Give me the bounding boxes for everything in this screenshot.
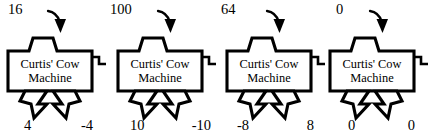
- output-value-left: 10: [130, 118, 145, 133]
- output-chute-left: [130, 91, 157, 118]
- output-chute-right: [163, 91, 190, 118]
- curved-down-arrow-head-icon: [274, 19, 286, 33]
- crank-handle-icon: [414, 57, 428, 64]
- output-value-right: -10: [192, 118, 211, 133]
- crank-handle-icon: [202, 57, 216, 64]
- output-chute-right: [272, 91, 299, 118]
- machine-label-line2: Machine: [350, 71, 394, 85]
- output-chute-left: [20, 91, 47, 118]
- input-value: 64: [221, 2, 236, 17]
- curved-down-arrow-head-icon: [165, 19, 177, 33]
- curved-down-arrow-head-icon: [55, 19, 67, 33]
- output-value-right: 8: [307, 118, 314, 133]
- machine-panel: Curtis' Cow Machine 0 0 0: [322, 0, 429, 140]
- output-chute-right: [375, 91, 402, 118]
- output-value-left: 0: [348, 118, 355, 133]
- machine-label-line1: Curtis' Cow: [20, 57, 79, 71]
- machine-panel: Curtis' Cow Machine 64 -8 8: [219, 0, 326, 140]
- curved-down-arrow-head-icon: [377, 19, 389, 33]
- diagram-strip: Curtis' Cow Machine 16 4 -4 Curtis' Cow …: [0, 0, 429, 140]
- machine-label-line2: Machine: [138, 71, 182, 85]
- input-value: 0: [336, 2, 343, 17]
- machine-panel: Curtis' Cow Machine 16 4 -4: [0, 0, 107, 140]
- output-chute-right: [53, 91, 80, 118]
- output-value-right: 0: [408, 118, 415, 133]
- output-value-right: -4: [81, 118, 93, 133]
- output-chute-left: [342, 91, 369, 118]
- machine-label-line2: Machine: [28, 71, 72, 85]
- machine-label-line1: Curtis' Cow: [239, 57, 298, 71]
- machine-label-line1: Curtis' Cow: [130, 57, 189, 71]
- input-value: 16: [8, 2, 23, 17]
- crank-handle-icon: [92, 57, 106, 64]
- output-value-left: 4: [24, 118, 31, 133]
- output-chute-left: [239, 91, 266, 118]
- machine-label-line2: Machine: [247, 71, 291, 85]
- output-value-left: -8: [237, 118, 249, 133]
- machine-label-line1: Curtis' Cow: [342, 57, 401, 71]
- machine-panel: Curtis' Cow Machine 100 10 -10: [110, 0, 217, 140]
- input-value: 100: [110, 2, 132, 17]
